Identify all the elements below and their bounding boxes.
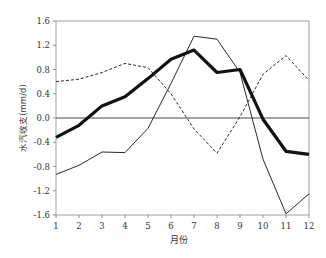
x-tick-label: 10 <box>258 221 269 231</box>
x-tick-label: 7 <box>191 221 196 231</box>
x-axis-title: 月份 <box>170 233 188 246</box>
x-tick-label: 5 <box>145 221 150 231</box>
series-line-thin-solid <box>56 36 309 214</box>
y-tick-label: -1.6 <box>34 210 50 220</box>
y-tick-label: 1.6 <box>36 16 50 26</box>
x-tick-label: 9 <box>237 221 242 231</box>
x-tick-label: 4 <box>122 221 127 231</box>
x-tick-label: 11 <box>281 221 292 231</box>
x-tick-label: 3 <box>99 221 104 231</box>
y-axis-title: 水汽收支(mm/d) <box>16 78 28 158</box>
x-tick-label: 12 <box>304 221 315 231</box>
x-tick-label: 6 <box>168 221 173 231</box>
series-line-thick-solid <box>56 50 309 154</box>
y-tick-label: 0.8 <box>36 65 50 75</box>
x-tick-label: 2 <box>76 221 81 231</box>
y-tick-label: -0.4 <box>34 137 50 147</box>
y-tick-label: 1.2 <box>36 40 50 50</box>
x-tick-label: 1 <box>53 221 58 231</box>
y-tick-label: 0.4 <box>36 89 50 99</box>
y-tick-label: -0.8 <box>34 162 50 172</box>
line-chart: 1.61.20.80.40.0-0.4-0.8-1.2-1.6123456789… <box>0 0 326 258</box>
y-tick-label: -1.2 <box>34 186 50 196</box>
x-tick-label: 8 <box>214 221 219 231</box>
plot-area <box>53 21 309 218</box>
axis-labels: 1.61.20.80.40.0-0.4-0.8-1.2-1.6123456789… <box>34 16 315 231</box>
series-line-dashed <box>56 56 309 154</box>
y-tick-label: 0.0 <box>36 113 50 123</box>
series-group <box>56 36 309 214</box>
